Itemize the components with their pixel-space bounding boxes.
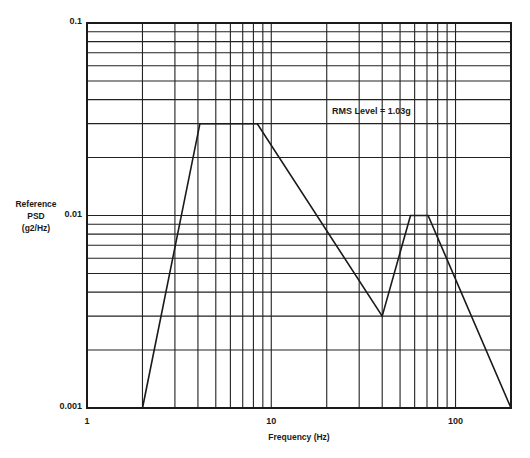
grid-lines bbox=[87, 23, 511, 408]
psd-chart bbox=[0, 0, 530, 458]
y-axis-label-line-2: PSD bbox=[6, 210, 66, 222]
y-axis-label-line-1: Reference bbox=[6, 198, 66, 210]
rms-level-annotation: RMS Level = 1.03g bbox=[332, 106, 411, 116]
x-axis-label: Frequency (Hz) bbox=[239, 432, 359, 442]
y-tick-label: 0.001 bbox=[42, 401, 82, 411]
y-tick-label: 0.1 bbox=[42, 16, 82, 26]
y-axis-label-line-3: (g2/Hz) bbox=[6, 222, 66, 234]
y-axis-label: Reference PSD (g2/Hz) bbox=[6, 198, 66, 234]
x-tick-label: 10 bbox=[251, 416, 291, 426]
x-tick-label: 100 bbox=[436, 416, 476, 426]
x-tick-label: 1 bbox=[67, 416, 107, 426]
